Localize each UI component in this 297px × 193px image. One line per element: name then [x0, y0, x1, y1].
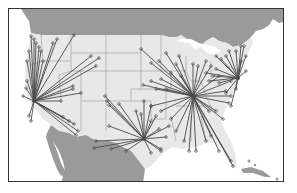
- caribbean-island: [276, 178, 279, 181]
- hub-marker: [191, 94, 195, 98]
- map-frame: [8, 8, 284, 182]
- bahamas-island: [254, 164, 256, 166]
- bahamas-island: [248, 160, 251, 163]
- hub-marker: [32, 99, 36, 103]
- us-flow-map: [9, 9, 284, 182]
- hub-marker: [236, 76, 240, 80]
- cuba: [241, 167, 271, 177]
- hub-marker: [142, 137, 146, 141]
